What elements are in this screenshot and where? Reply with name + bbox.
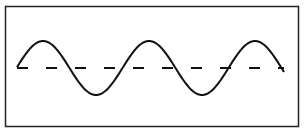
diagram-frame <box>6 7 299 127</box>
waveform-diagram <box>0 0 307 133</box>
sine-wave <box>17 41 284 95</box>
